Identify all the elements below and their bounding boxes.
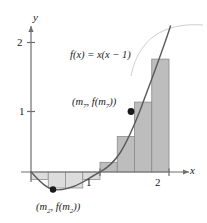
plot-canvas <box>0 0 207 223</box>
function-label: f(x) = x(x − 1) <box>70 50 131 61</box>
point-marker-m7 <box>128 108 135 115</box>
midpoint-2-close: )) <box>73 201 80 212</box>
point-marker-m2 <box>50 186 56 192</box>
riemann-rect-2 <box>48 172 65 188</box>
y-axis-tick-label-1: 1 <box>19 106 25 117</box>
y-axis-arrowhead <box>28 26 33 32</box>
midpoint-2-mid: , f(m <box>51 201 70 212</box>
x-axis-tick-label-1: 1 <box>86 177 92 188</box>
riemann-rect-1 <box>31 172 48 180</box>
midpoint-7-label: (m7, f(m7)) <box>72 97 116 110</box>
x-axis-name: x <box>190 165 195 176</box>
y-axis-name: y <box>33 12 38 23</box>
riemann-rect-8 <box>152 59 169 172</box>
y-axis-tick-label-2: 2 <box>17 37 23 48</box>
riemann-sum-figure: 2 1 1 2 y x f(x) = x(x − 1) (m7, f(m7)) … <box>0 0 207 223</box>
midpoint-2-label: (m2, f(m2)) <box>36 202 80 215</box>
midpoint-7-open: (m <box>72 96 83 107</box>
rectangles-above-axis <box>100 59 169 172</box>
riemann-rect-7 <box>135 102 152 172</box>
x-axis-arrowhead <box>183 169 189 174</box>
midpoint-2-open: (m <box>36 201 47 212</box>
riemann-rect-3 <box>66 172 83 188</box>
midpoint-7-mid: , f(m <box>87 96 106 107</box>
x-axis-tick-label-2: 2 <box>155 177 161 188</box>
midpoint-7-close: )) <box>109 96 116 107</box>
